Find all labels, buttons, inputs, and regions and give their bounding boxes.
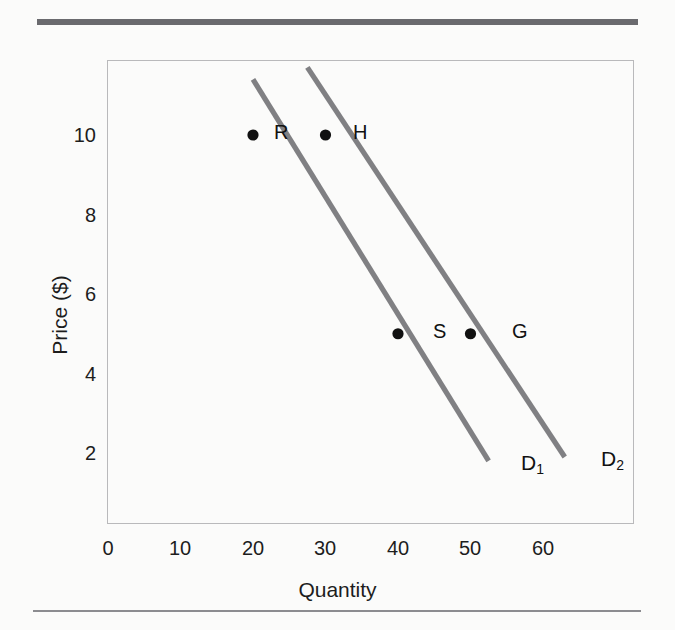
x-tick-label-50: 50 bbox=[459, 538, 481, 558]
x-tick-label-40: 40 bbox=[387, 538, 409, 558]
data-point-R bbox=[247, 129, 258, 140]
curve-label-d2: D2 bbox=[601, 448, 624, 472]
x-axis-title: Quantity bbox=[298, 578, 376, 602]
point-label-H: H bbox=[353, 122, 367, 142]
x-tick-label-0: 0 bbox=[102, 538, 113, 558]
point-label-G: G bbox=[512, 321, 528, 341]
data-point-G bbox=[465, 328, 476, 339]
data-point-S bbox=[392, 328, 403, 339]
y-tick-label-10: 10 bbox=[58, 125, 96, 145]
x-tick-label-60: 60 bbox=[532, 538, 554, 558]
x-tick-label-30: 30 bbox=[314, 538, 336, 558]
demand-curve-d2 bbox=[307, 67, 564, 457]
bottom-divider-rule bbox=[33, 610, 641, 612]
chart-plot-area bbox=[0, 0, 675, 630]
chart-page: 10 8 6 4 2 0 10 20 30 40 50 60 Quantity … bbox=[0, 0, 675, 630]
curve-label-d2-subscript: 2 bbox=[616, 457, 624, 473]
curve-label-d1-text: D bbox=[521, 451, 536, 474]
curve-label-d1: D1 bbox=[521, 452, 544, 476]
data-point-H bbox=[320, 129, 331, 140]
x-tick-label-20: 20 bbox=[242, 538, 264, 558]
y-tick-label-8: 8 bbox=[58, 205, 96, 225]
point-label-S: S bbox=[433, 321, 446, 341]
y-tick-label-2: 2 bbox=[58, 443, 96, 463]
x-tick-label-10: 10 bbox=[169, 538, 191, 558]
curve-label-d1-subscript: 1 bbox=[536, 461, 544, 477]
curve-label-d2-text: D bbox=[601, 447, 616, 470]
y-tick-label-4: 4 bbox=[58, 364, 96, 384]
point-label-R: R bbox=[274, 122, 288, 142]
y-axis-title: Price ($) bbox=[48, 275, 72, 354]
